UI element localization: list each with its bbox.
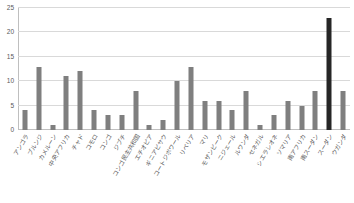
plot-area — [18, 8, 350, 130]
bar[interactable] — [22, 110, 27, 130]
bar-slot — [212, 8, 226, 130]
y-tick-label: 15 — [0, 54, 14, 61]
bar[interactable] — [258, 125, 263, 130]
bar-slot — [60, 8, 74, 130]
bar-slot — [239, 8, 253, 130]
x-axis-tick-labels: アンゴラブルンジカメルーン中央アフリカチャドコモロコンゴジブチコンゴ民主共和国エ… — [18, 131, 350, 203]
bar[interactable] — [147, 125, 152, 130]
bar-slot — [46, 8, 60, 130]
bar-slot — [184, 8, 198, 130]
bar[interactable] — [50, 125, 55, 130]
bar-slot — [226, 8, 240, 130]
bar-slot — [129, 8, 143, 130]
bar[interactable] — [313, 91, 318, 130]
bar-slot — [253, 8, 267, 130]
bar-slot — [101, 8, 115, 130]
bar-slot — [115, 8, 129, 130]
bar-slot — [267, 8, 281, 130]
bar-slot — [73, 8, 87, 130]
bar[interactable] — [119, 115, 124, 130]
x-tick-label: チャド — [71, 133, 85, 152]
bar-slot — [156, 8, 170, 130]
bar[interactable] — [188, 67, 193, 130]
bar-slot — [322, 8, 336, 130]
bar[interactable] — [216, 101, 221, 130]
bar-slot — [281, 8, 295, 130]
y-tick-label: 5 — [0, 102, 14, 109]
bars-layer — [18, 8, 350, 130]
bar[interactable] — [341, 91, 346, 130]
bar[interactable] — [64, 76, 69, 130]
y-tick-label: 25 — [0, 5, 14, 12]
bar[interactable] — [105, 115, 110, 130]
y-tick-label: 0 — [0, 127, 14, 134]
x-tick-label: コンゴ — [99, 133, 113, 152]
x-tick-label: ジブチ — [113, 133, 127, 152]
bar-slot — [198, 8, 212, 130]
bar-slot — [309, 8, 323, 130]
y-tick-label: 20 — [0, 29, 14, 36]
bar-slot — [32, 8, 46, 130]
bar[interactable] — [271, 115, 276, 130]
bar[interactable] — [202, 101, 207, 130]
y-tick-label: 10 — [0, 78, 14, 85]
bar[interactable] — [133, 91, 138, 130]
bar[interactable] — [175, 81, 180, 130]
bar-chart: 0510152025 アンゴラブルンジカメルーン中央アフリカチャドコモロコンゴジ… — [0, 0, 354, 203]
x-tick-label: コモロ — [85, 133, 99, 152]
bar[interactable] — [161, 120, 166, 130]
bar[interactable] — [92, 110, 97, 130]
bar[interactable] — [244, 91, 249, 130]
bar-slot — [87, 8, 101, 130]
bar[interactable] — [78, 71, 83, 130]
x-tick-label: マリ — [199, 133, 210, 146]
bar-slot — [170, 8, 184, 130]
bar[interactable] — [327, 18, 332, 130]
bar[interactable] — [299, 106, 304, 130]
bar[interactable] — [285, 101, 290, 130]
bar[interactable] — [230, 110, 235, 130]
bar[interactable] — [36, 67, 41, 130]
bar-slot — [18, 8, 32, 130]
bar-slot — [295, 8, 309, 130]
x-tick-label: コートジボワール — [153, 133, 182, 178]
bar-slot — [336, 8, 350, 130]
bar-slot — [143, 8, 157, 130]
